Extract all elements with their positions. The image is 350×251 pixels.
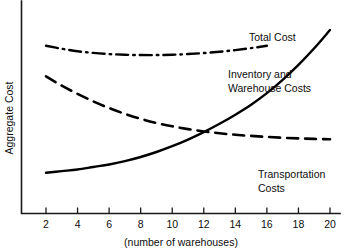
series-label-line: Total Cost: [249, 31, 296, 43]
series-inventory-and-warehouse-costs: [46, 30, 330, 173]
data-series-group: [46, 30, 330, 173]
series-label-transportation: TransportationCosts: [258, 168, 325, 194]
x-axis-ticks: [46, 208, 330, 214]
aggregate-cost-line-chart: Aggregate Cost 2468101214161820 (number …: [0, 0, 350, 251]
x-axis-caption: (number of warehouses): [124, 236, 238, 248]
series-total-cost: [46, 46, 267, 55]
x-tick-label-6: 6: [106, 218, 112, 230]
series-label-inventory-warehouse: Inventory andWarehouse Costs: [228, 68, 311, 94]
series-label-total-cost: Total Cost: [249, 31, 296, 43]
x-tick-label-14: 14: [229, 218, 241, 230]
series-label-line: Inventory and: [228, 68, 292, 80]
x-tick-label-16: 16: [261, 218, 273, 230]
series-label-line: Transportation: [258, 168, 325, 180]
chart-container: Aggregate Cost 2468101214161820 (number …: [0, 0, 350, 251]
x-tick-label-2: 2: [43, 218, 49, 230]
y-axis-title: Aggregate Cost: [3, 81, 15, 154]
x-tick-label-4: 4: [75, 218, 81, 230]
x-tick-label-12: 12: [198, 218, 210, 230]
series-label-line: Warehouse Costs: [228, 82, 311, 94]
series-annotations: Total CostInventory andWarehouse CostsTr…: [228, 31, 325, 194]
x-tick-label-18: 18: [293, 218, 305, 230]
x-axis-tick-labels: 2468101214161820: [43, 218, 336, 230]
x-tick-label-8: 8: [138, 218, 144, 230]
series-label-line: Costs: [258, 182, 285, 194]
x-tick-label-20: 20: [324, 218, 336, 230]
x-tick-label-10: 10: [166, 218, 178, 230]
